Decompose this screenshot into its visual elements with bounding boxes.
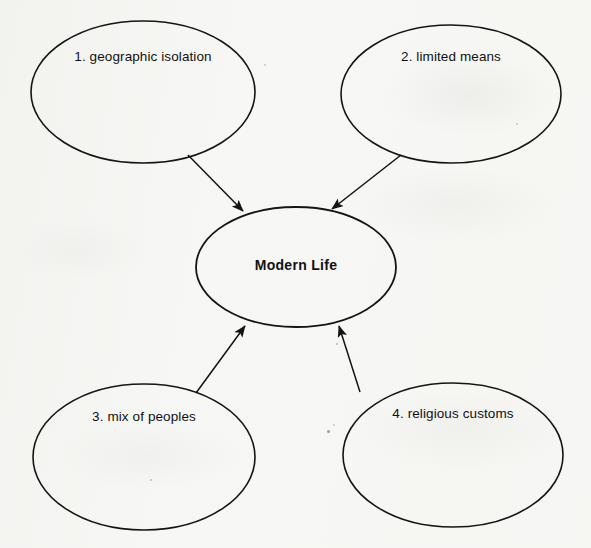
node-ellipse-mix-of-peoples[interactable] bbox=[33, 384, 255, 530]
edge-node4-to-center bbox=[339, 326, 360, 392]
node-label-modern-life: Modern Life bbox=[255, 258, 338, 273]
node-ellipse-limited-means[interactable] bbox=[341, 25, 561, 163]
dust-speck bbox=[264, 64, 266, 66]
diagram-page: 1. geographic isolation 2. limited means… bbox=[0, 0, 591, 548]
edge-node2-to-center bbox=[332, 155, 401, 209]
node-label-geographic-isolation: 1. geographic isolation bbox=[74, 50, 211, 65]
node-label-mix-of-peoples: 3. mix of peoples bbox=[92, 410, 196, 425]
dust-speck bbox=[150, 479, 152, 481]
dust-speck bbox=[327, 430, 330, 433]
node-label-religious-customs: 4. religious customs bbox=[392, 407, 513, 422]
concept-map-canvas bbox=[0, 0, 591, 548]
dust-speck bbox=[333, 424, 335, 426]
node-ellipse-geographic-isolation[interactable] bbox=[31, 21, 255, 163]
node-label-limited-means: 2. limited means bbox=[401, 50, 501, 65]
edge-node1-to-center bbox=[188, 155, 243, 211]
edge-node3-to-center bbox=[196, 326, 245, 393]
dust-speck bbox=[336, 343, 338, 345]
dust-speck bbox=[516, 123, 518, 125]
